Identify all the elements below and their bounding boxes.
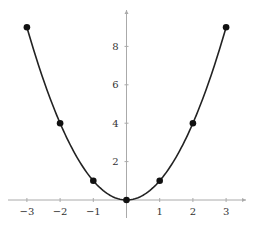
data-point-marker xyxy=(156,178,163,185)
data-point-marker xyxy=(190,120,197,127)
x-tick-label: 2 xyxy=(190,206,196,217)
y-tick-label: 6 xyxy=(112,79,118,90)
y-axis-arrow-icon xyxy=(125,10,129,14)
y-tick-label: 4 xyxy=(112,118,118,129)
y-tick-label: 2 xyxy=(112,156,118,167)
y-tick-label: 8 xyxy=(112,41,118,52)
x-axis-arrow-icon xyxy=(242,198,246,202)
x-tick-label: 1 xyxy=(157,206,163,217)
tick-labels: −3−2−11232468 xyxy=(20,41,230,217)
parabola-chart: −3−2−11232468 xyxy=(0,0,253,230)
x-tick-label: 3 xyxy=(223,206,229,217)
x-tick-label: −2 xyxy=(53,206,68,217)
x-tick-label: −1 xyxy=(86,206,101,217)
data-point-marker xyxy=(223,24,230,31)
data-point-marker xyxy=(90,178,97,185)
data-point-marker xyxy=(24,24,31,31)
data-point-marker xyxy=(57,120,64,127)
axes xyxy=(8,10,246,218)
x-tick-label: −3 xyxy=(20,206,35,217)
data-point-marker xyxy=(123,197,130,204)
